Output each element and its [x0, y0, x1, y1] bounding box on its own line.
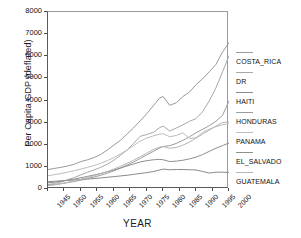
x-tick-mark — [129, 188, 130, 191]
series-line — [48, 124, 229, 176]
legend-item-label: COSTA_RICA — [236, 58, 281, 65]
y-tick-label: 5000 — [14, 73, 42, 81]
legend-swatch-icon — [236, 132, 253, 133]
x-tick-label: 1985 — [187, 193, 203, 209]
y-tick-label: 7000 — [14, 29, 42, 37]
legend-item-label: HAITI — [236, 98, 254, 105]
x-tick-mark — [63, 188, 64, 191]
legend-item-label: HONDURAS — [236, 118, 277, 125]
x-tick-label: 1955 — [88, 193, 104, 209]
series-line — [48, 169, 229, 182]
x-tick-mark — [212, 188, 213, 191]
x-tick-mark — [162, 188, 163, 191]
x-tick-mark — [228, 188, 229, 191]
y-tick-label: 1000 — [14, 162, 42, 170]
legend-swatch-icon — [236, 152, 253, 153]
legend-item[interactable]: PANAMA — [236, 132, 300, 152]
x-tick-label: 1960 — [105, 193, 121, 209]
legend-swatch-icon — [236, 52, 253, 53]
x-tick-label: 1965 — [121, 193, 137, 209]
x-tick-label: 1990 — [204, 193, 220, 209]
legend-item[interactable]: HAITI — [236, 92, 300, 112]
legend-item-label: GUATEMALA — [236, 178, 280, 185]
legend: COSTA_RICADRHAITIHONDURASPANAMAEL_SALVAD… — [236, 52, 300, 192]
x-tick-label: 1975 — [154, 193, 170, 209]
x-tick-mark — [146, 188, 147, 191]
x-tick-label: 2000 — [237, 193, 253, 209]
legend-item[interactable]: COSTA_RICA — [236, 52, 300, 72]
legend-item[interactable]: GUATEMALA — [236, 172, 300, 192]
series-line — [48, 101, 229, 185]
legend-item-label: EL_SALVADO — [236, 158, 282, 165]
legend-item-label: PANAMA — [236, 138, 266, 145]
series-lines — [48, 12, 229, 189]
x-tick-label: 1970 — [138, 193, 154, 209]
series-line — [48, 43, 229, 170]
y-tick-label: 0 — [14, 184, 42, 192]
plot-area — [47, 11, 228, 188]
x-tick-label: 1995 — [220, 193, 236, 209]
y-tick-label: 4000 — [14, 96, 42, 104]
x-tick-mark — [47, 188, 48, 191]
x-tick-mark — [179, 188, 180, 191]
y-tick-label: 2000 — [14, 140, 42, 148]
y-tick-label: 8000 — [14, 7, 42, 15]
series-line — [48, 56, 229, 185]
x-tick-mark — [80, 188, 81, 191]
x-tick-label: 1945 — [56, 193, 72, 209]
legend-swatch-icon — [236, 112, 253, 113]
y-tick-label: 6000 — [14, 51, 42, 59]
legend-item-label: DR — [236, 78, 246, 85]
legend-swatch-icon — [236, 72, 253, 73]
x-tick-mark — [195, 188, 196, 191]
x-tick-mark — [113, 188, 114, 191]
series-line — [48, 122, 229, 186]
legend-item[interactable]: HONDURAS — [236, 112, 300, 132]
x-tick-mark — [96, 188, 97, 191]
y-tick-label: 3000 — [14, 118, 42, 126]
x-axis-title: YEAR — [47, 218, 228, 229]
x-tick-label: 1950 — [72, 193, 88, 209]
x-tick-label: 1980 — [171, 193, 187, 209]
legend-swatch-icon — [236, 92, 253, 93]
legend-item[interactable]: DR — [236, 72, 300, 92]
legend-item[interactable]: EL_SALVADO — [236, 152, 300, 172]
legend-swatch-icon — [236, 172, 253, 173]
chart-container: Per Capita GDP (deflated) 01000200030004… — [0, 0, 301, 238]
